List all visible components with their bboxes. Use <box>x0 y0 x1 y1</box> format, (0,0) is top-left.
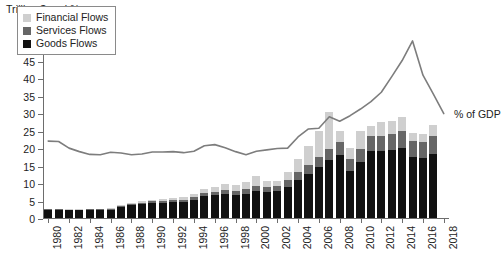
x-tick-label: 1984 <box>94 226 105 249</box>
y-axis-line <box>43 27 44 219</box>
x-axis-line <box>43 218 449 219</box>
bar-2014 <box>398 117 406 218</box>
bar-segment-services-flows <box>325 149 333 161</box>
bar-segment-financial-flows <box>325 112 333 148</box>
bar-segment-goods-flows <box>75 210 83 218</box>
x-tick-label: 1990 <box>156 226 167 249</box>
x-tick-label: 1986 <box>115 226 126 249</box>
bar-1980 <box>44 209 52 218</box>
y-tick <box>38 149 43 150</box>
y-tick <box>38 79 43 80</box>
legend-item-services-flows: Services Flows <box>23 24 108 37</box>
x-tick <box>361 219 362 223</box>
x-tick <box>194 219 195 223</box>
y-tick-label: 0 <box>29 214 35 225</box>
bar-segment-goods-flows <box>127 205 135 218</box>
bar-segment-goods-flows <box>211 195 219 218</box>
bar-1993 <box>179 197 187 218</box>
bar-1987 <box>117 205 125 218</box>
legend-label: Services Flows <box>36 25 107 36</box>
bar-segment-financial-flows <box>294 159 302 172</box>
y-tick-label: 45 <box>23 57 35 68</box>
x-tick-label: 1992 <box>177 226 188 249</box>
y-tick <box>38 132 43 133</box>
bar-2003 <box>284 172 292 218</box>
y-tick <box>38 202 43 203</box>
bar-segment-financial-flows <box>419 134 427 142</box>
bar-segment-financial-flows <box>429 125 437 137</box>
bar-segment-goods-flows <box>388 150 396 218</box>
bar-segment-goods-flows <box>377 151 385 218</box>
line-series-label: % of GDP <box>454 109 501 120</box>
bar-1998 <box>232 185 240 218</box>
bar-1984 <box>86 209 94 218</box>
x-tick-label: 2016 <box>427 226 438 249</box>
bar-segment-financial-flows <box>304 146 312 165</box>
legend-swatch-icon <box>23 14 31 22</box>
y-tick-label: 20 <box>23 144 35 155</box>
bar-segment-financial-flows <box>398 117 406 131</box>
x-tick-label: 1980 <box>52 226 63 249</box>
x-tick-label: 1982 <box>73 226 84 249</box>
bar-segment-goods-flows <box>169 202 177 218</box>
bar-segment-goods-flows <box>346 171 354 218</box>
bar-segment-financial-flows <box>377 122 385 136</box>
x-tick <box>381 219 382 223</box>
plot-area: 0510152025303540455055 19801982198419861… <box>43 27 449 219</box>
bar-2002 <box>273 181 281 218</box>
y-tick-label: 15 <box>23 161 35 172</box>
bar-segment-goods-flows <box>398 148 406 218</box>
bar-2013 <box>388 121 396 218</box>
bar-segment-goods-flows <box>263 192 271 218</box>
bar-1995 <box>200 189 208 218</box>
x-tick-label: 1988 <box>135 226 146 249</box>
bar-segment-goods-flows <box>190 200 198 218</box>
bar-2007 <box>325 112 333 218</box>
bar-segment-goods-flows <box>96 210 104 218</box>
bar-2006 <box>315 131 323 218</box>
x-tick <box>152 219 153 223</box>
y-tick <box>38 114 43 115</box>
y-tick-label: 40 <box>23 74 35 85</box>
bar-segment-goods-flows <box>148 203 156 218</box>
y-tick-label: 30 <box>23 109 35 120</box>
bar-2000 <box>252 176 260 218</box>
bar-segment-financial-flows <box>336 131 344 141</box>
bar-segment-goods-flows <box>232 195 240 218</box>
bar-2016 <box>419 134 427 218</box>
bar-segment-financial-flows <box>409 133 417 141</box>
y-tick <box>38 62 43 63</box>
x-tick <box>173 219 174 223</box>
bar-1999 <box>242 182 250 218</box>
x-tick <box>48 219 49 223</box>
bar-segment-goods-flows <box>409 157 417 218</box>
bar-1988 <box>127 203 135 218</box>
x-tick <box>319 219 320 223</box>
legend-item-goods-flows: Goods Flows <box>23 37 108 50</box>
bar-1992 <box>169 198 177 218</box>
bar-segment-services-flows <box>377 136 385 151</box>
x-tick <box>444 219 445 223</box>
bar-segment-financial-flows <box>315 131 323 157</box>
bar-segment-financial-flows <box>284 172 292 180</box>
bar-segment-goods-flows <box>315 167 323 218</box>
chart-legend: Financial FlowsServices FlowsGoods Flows <box>17 6 116 55</box>
bar-1996 <box>211 187 219 218</box>
x-tick-label: 2000 <box>260 226 271 249</box>
bar-segment-services-flows <box>336 142 344 155</box>
x-tick <box>131 219 132 223</box>
bar-segment-goods-flows <box>325 160 333 218</box>
bar-1991 <box>159 199 167 218</box>
bar-segment-goods-flows <box>65 210 73 218</box>
bar-segment-financial-flows <box>367 126 375 136</box>
bar-segment-goods-flows <box>159 203 167 218</box>
x-tick-label: 2004 <box>302 226 313 249</box>
x-tick <box>402 219 403 223</box>
bar-segment-goods-flows <box>367 151 375 218</box>
x-tick-label: 2002 <box>281 226 292 249</box>
bar-1981 <box>55 209 63 218</box>
bar-1985 <box>96 209 104 218</box>
y-tick <box>38 167 43 168</box>
x-tick-label: 2014 <box>406 226 417 249</box>
